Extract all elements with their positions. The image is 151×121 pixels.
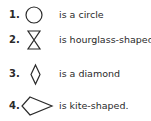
- shapes-canvas: [0, 0, 151, 121]
- kite-icon: [22, 97, 52, 115]
- hourglass-icon: [28, 31, 40, 49]
- diamond-icon: [31, 65, 40, 84]
- circle-icon: [26, 7, 42, 23]
